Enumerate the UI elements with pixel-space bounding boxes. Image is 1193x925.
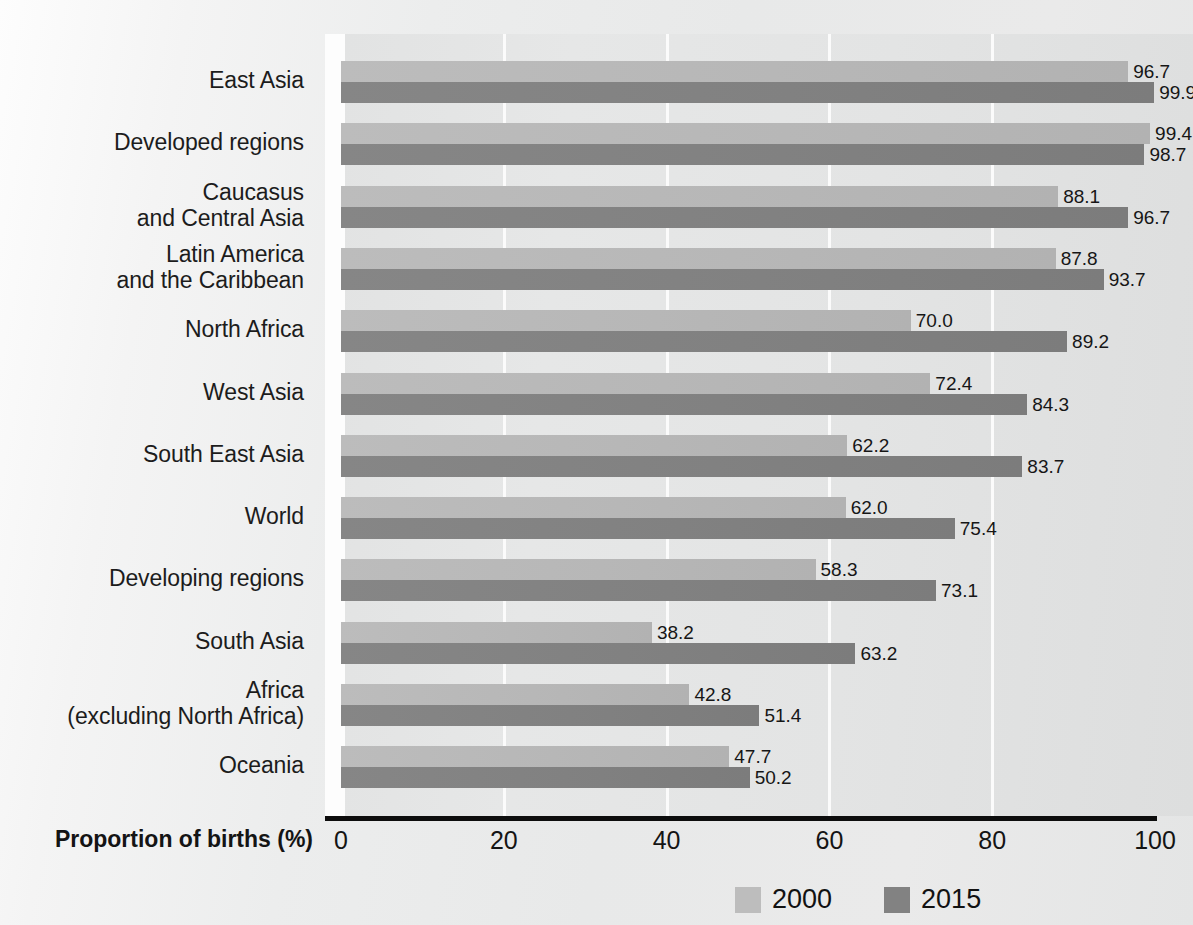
bar-2000 [341,186,1058,207]
chart-row: West Asia72.484.3 [0,373,1193,435]
bar-2000 [341,497,846,518]
chart-row: South East Asia62.283.7 [0,435,1193,497]
x-axis-line [325,816,1157,821]
bar-value-label: 96.7 [1128,207,1170,228]
bar-2015 [341,144,1144,165]
legend-swatch-2000-icon [735,887,761,913]
chart-row: Oceania47.750.2 [0,746,1193,808]
bar-2015 [341,643,855,664]
chart-row: North Africa70.089.2 [0,310,1193,372]
bar-2000 [341,622,652,643]
bar-value-label: 89.2 [1067,331,1109,352]
bar-value-label: 84.3 [1027,394,1069,415]
bar-chart: East Asia96.799.9Developed regions99.498… [0,0,1193,925]
chart-row: South Asia38.263.2 [0,622,1193,684]
bar-value-label: 58.3 [816,559,858,580]
bar-value-label: 83.7 [1022,456,1064,477]
x-axis-title: Proportion of births (%) [8,826,313,853]
bar-2000 [341,310,911,331]
bar-value-label: 62.2 [847,435,889,456]
bar-2015 [341,82,1154,103]
bar-2000 [341,435,847,456]
bar-value-label: 72.4 [930,373,972,394]
category-label: South Asia [0,628,304,654]
x-tick-0: 0 [334,826,348,855]
chart-row: Developing regions58.373.1 [0,559,1193,621]
legend-label-2000: 2000 [772,884,832,915]
bar-value-label: 63.2 [855,643,897,664]
x-tick-60: 60 [815,826,843,855]
legend-item-2015[interactable]: 2015 [884,884,981,915]
bar-value-label: 50.2 [750,767,792,788]
legend-label-2015: 2015 [921,884,981,915]
chart-row: World62.075.4 [0,497,1193,559]
chart-row: Africa(excluding North Africa)42.851.4 [0,684,1193,746]
bar-value-label: 75.4 [955,518,997,539]
bar-value-label: 70.0 [911,310,953,331]
category-label: World [0,503,304,529]
chart-row: Latin Americaand the Caribbean87.893.7 [0,248,1193,310]
bar-2000 [341,559,816,580]
legend: 2000 2015 [735,884,981,915]
chart-row: East Asia96.799.9 [0,61,1193,123]
chart-row: Caucasusand Central Asia88.196.7 [0,186,1193,248]
category-label: North Africa [0,316,304,342]
bar-value-label: 99.9 [1154,82,1193,103]
bar-2015 [341,705,759,726]
category-label: Africa(excluding North Africa) [0,677,304,729]
category-label: Developed regions [0,129,304,155]
bar-2015 [341,394,1027,415]
bar-2000 [341,373,930,394]
bar-value-label: 42.8 [689,684,731,705]
category-label: Developing regions [0,565,304,591]
bar-2015 [341,269,1104,290]
x-tick-80: 80 [978,826,1006,855]
bar-value-label: 73.1 [936,580,978,601]
category-label: East Asia [0,67,304,93]
category-label: Oceania [0,752,304,778]
bar-value-label: 96.7 [1128,61,1170,82]
bar-2015 [341,456,1022,477]
bar-value-label: 62.0 [846,497,888,518]
bar-value-label: 87.8 [1056,248,1098,269]
bar-2000 [341,684,689,705]
category-label: West Asia [0,379,304,405]
bar-value-label: 88.1 [1058,186,1100,207]
bar-2000 [341,61,1128,82]
bar-value-label: 99.4 [1150,123,1192,144]
bar-2015 [341,580,936,601]
bar-2000 [341,248,1056,269]
legend-item-2000[interactable]: 2000 [735,884,832,915]
bar-value-label: 93.7 [1104,269,1146,290]
bar-2015 [341,767,750,788]
category-label: Caucasusand Central Asia [0,179,304,231]
x-tick-20: 20 [490,826,518,855]
x-tick-40: 40 [653,826,681,855]
bar-value-label: 98.7 [1144,144,1186,165]
bar-2000 [341,746,729,767]
bar-value-label: 38.2 [652,622,694,643]
bar-2015 [341,207,1128,228]
bar-2015 [341,331,1067,352]
category-label: South East Asia [0,441,304,467]
bar-value-label: 47.7 [729,746,771,767]
bar-2000 [341,123,1150,144]
bar-2015 [341,518,955,539]
legend-swatch-2015-icon [884,887,910,913]
category-label: Latin Americaand the Caribbean [0,241,304,293]
x-tick-100: 100 [1134,826,1176,855]
chart-row: Developed regions99.498.7 [0,123,1193,185]
bar-value-label: 51.4 [759,705,801,726]
